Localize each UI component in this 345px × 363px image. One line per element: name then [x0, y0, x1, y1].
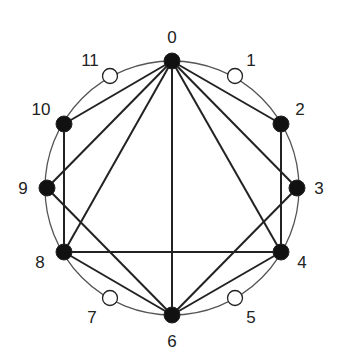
node-label-10: 10	[32, 101, 51, 118]
edges-group	[47, 61, 297, 315]
node-label-0: 0	[167, 29, 176, 46]
node-10	[56, 116, 72, 132]
node-0	[164, 53, 180, 69]
node-label-2: 2	[295, 101, 304, 118]
graph-diagram	[0, 0, 345, 363]
node-label-5: 5	[246, 309, 255, 326]
edge-4-6	[172, 252, 281, 315]
node-label-7: 7	[87, 309, 96, 326]
node-label-3: 3	[314, 180, 323, 197]
node-label-8: 8	[35, 254, 44, 271]
node-7	[103, 291, 118, 306]
node-label-11: 11	[81, 52, 99, 69]
node-3	[289, 180, 305, 196]
edge-0-8	[64, 61, 172, 252]
edge-0-2	[172, 61, 281, 124]
node-5	[228, 291, 243, 306]
node-label-9: 9	[18, 180, 27, 197]
node-2	[273, 116, 289, 132]
node-9	[39, 180, 55, 196]
node-label-1: 1	[246, 52, 255, 69]
node-label-6: 6	[167, 333, 176, 350]
node-4	[273, 244, 289, 260]
node-label-4: 4	[297, 254, 306, 271]
node-8	[56, 244, 72, 260]
node-11	[103, 69, 118, 84]
node-6	[164, 307, 180, 323]
node-1	[228, 69, 243, 84]
